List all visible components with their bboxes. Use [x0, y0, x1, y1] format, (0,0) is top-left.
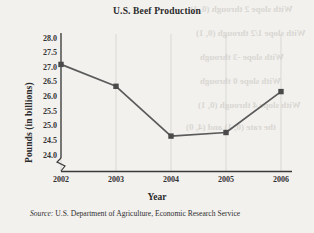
- figure-container: With slope 2 through (0, 1) With slope 1…: [0, 0, 314, 233]
- data-point-2003: [113, 84, 118, 89]
- y-tick-label: 27.5: [31, 48, 57, 57]
- x-tick-label: 2004: [154, 175, 188, 184]
- x-tick-label: 2005: [209, 175, 243, 184]
- y-tick-label: 25.5: [31, 107, 57, 116]
- y-tick-label: 26.0: [31, 92, 57, 101]
- y-tick-label: 25.0: [31, 121, 57, 130]
- data-point-2006: [278, 89, 283, 94]
- data-point-2002: [58, 62, 63, 67]
- y-tick-label: 28.0: [31, 34, 57, 43]
- x-tick-label: 2006: [264, 175, 298, 184]
- y-tick-label: 27.0: [31, 63, 57, 72]
- source-prefix: Source:: [30, 209, 53, 218]
- source-note: Source: U.S. Department of Agriculture, …: [30, 209, 240, 218]
- x-tick-label: 2003: [99, 175, 133, 184]
- x-tick-label: 2002: [44, 175, 78, 184]
- chart-title: U.S. Beef Production: [0, 6, 314, 16]
- x-axis-label: Year: [0, 192, 314, 202]
- source-text: U.S. Department of Agriculture, Economic…: [55, 209, 240, 218]
- y-tick-label: 26.5: [31, 77, 57, 86]
- gridlines: [61, 34, 281, 172]
- chart-plot: U.S. Beef Production 28.0 27.5 27.0 26.5…: [0, 0, 314, 233]
- y-axis-label: Pounds (in billions): [24, 82, 34, 163]
- y-tick-label: 24.5: [31, 136, 57, 145]
- data-point-2005: [223, 130, 228, 135]
- data-point-2004: [168, 133, 173, 138]
- y-tick-label: 24.0: [31, 151, 57, 160]
